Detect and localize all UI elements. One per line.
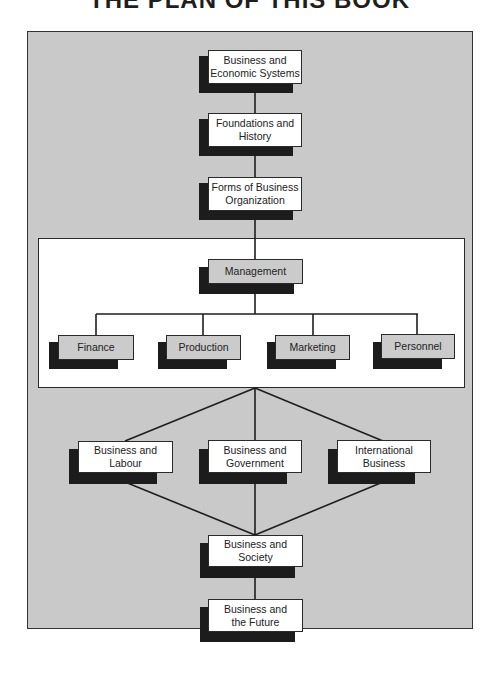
node-economic-systems: Business andEconomic Systems: [208, 50, 302, 84]
node-business-labour: Business andLabour: [78, 441, 173, 473]
node-marketing: Marketing: [275, 335, 350, 360]
node-label-line1: Business and: [224, 603, 287, 615]
node-box: Management: [208, 259, 303, 284]
node-label: Personnel: [394, 340, 441, 353]
node-forms-of-organization: Forms of BusinessOrganization: [208, 177, 302, 211]
node-international-business: InternationalBusiness: [337, 440, 431, 473]
node-label-line2: the Future: [232, 616, 280, 628]
node-box: Business andthe Future: [208, 599, 303, 632]
node-label-line1: Foundations and: [216, 117, 294, 129]
node-label-line2: Government: [226, 457, 284, 469]
node-box: Marketing: [275, 335, 350, 360]
node-label-line1: Business and: [94, 444, 157, 456]
node-label-line2: Labour: [109, 457, 142, 469]
node-label-line2: History: [239, 130, 272, 142]
node-box: Business andGovernment: [208, 440, 302, 473]
node-label-line1: International: [355, 444, 413, 456]
node-business-society: Business andSociety: [208, 535, 303, 567]
node-box: Forms of BusinessOrganization: [208, 177, 302, 211]
node-box: Production: [166, 335, 241, 360]
node-personnel: Personnel: [381, 334, 455, 359]
node-box: Business andLabour: [78, 441, 173, 473]
node-finance: Finance: [58, 335, 134, 360]
node-label: Marketing: [289, 341, 335, 354]
node-box: Personnel: [381, 334, 455, 359]
node-box: Foundations andHistory: [208, 113, 302, 147]
node-label-line2: Economic Systems: [210, 67, 299, 79]
node-label-line2: Organization: [225, 194, 285, 206]
node-box: Finance: [58, 335, 134, 360]
node-production: Production: [166, 335, 241, 360]
node-label-line2: Society: [238, 551, 272, 563]
node-box: InternationalBusiness: [337, 440, 431, 473]
node-label: Finance: [77, 341, 114, 354]
node-label-line1: Business and: [224, 538, 287, 550]
node-label: Management: [225, 265, 286, 278]
node-label-line1: Business and: [223, 444, 286, 456]
node-box: Business andEconomic Systems: [208, 50, 302, 84]
node-box: Business andSociety: [208, 535, 303, 567]
node-business-future: Business andthe Future: [208, 599, 303, 632]
node-foundations-history: Foundations andHistory: [208, 113, 302, 147]
node-label: Production: [178, 341, 228, 354]
node-label-line1: Business and: [223, 54, 286, 66]
node-business-government: Business andGovernment: [208, 440, 302, 473]
node-label-line1: Forms of Business: [212, 181, 299, 193]
node-label-line2: Business: [363, 457, 406, 469]
node-management: Management: [208, 259, 303, 284]
